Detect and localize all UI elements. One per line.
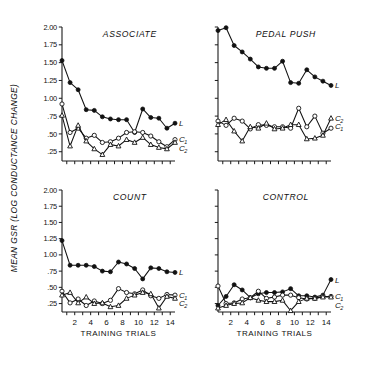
y-tick-label: 1.25 [43,234,57,243]
data-point-filled-circle [173,270,177,274]
x-tick-label: 12 [150,318,159,327]
data-point-open-circle [124,130,128,134]
data-point-filled-circle [289,287,293,291]
y-tick-label: 1.50 [43,218,57,227]
panel-associate: 2.001.751.501.251.00.75.50.25ASSOCIATELC… [43,23,187,165]
data-point-filled-circle [92,265,96,269]
x-tick-label: 6 [260,318,265,327]
data-point-open-circle [133,130,137,134]
data-point-filled-circle [117,260,121,264]
data-point-filled-circle [76,263,80,267]
data-point-filled-circle [240,50,244,54]
y-axis-title: MEAN GSR (LOG CONDUCTANCE CHANGE) [9,84,19,272]
data-point-filled-circle [264,66,268,70]
data-point-open-circle [68,301,72,305]
panel-pedal-push: PEDAL PUSHLC2C1 [215,26,343,164]
y-tick-label: .25 [47,299,57,308]
data-point-open-triangle [124,296,129,300]
data-point-filled-circle [60,59,64,63]
data-point-open-circle [124,290,128,294]
data-point-filled-circle [125,262,129,266]
data-point-open-circle [289,293,293,297]
series-label-l: L [335,81,339,90]
data-point-open-circle [60,102,64,106]
data-point-filled-circle [224,294,228,298]
series-label-c2-subscript: 2 [183,303,187,309]
data-point-filled-circle [92,108,96,112]
data-point-open-circle [216,284,220,288]
data-point-filled-circle [240,288,244,292]
panel-title: ASSOCIATE [102,29,157,39]
series-label-l: L [335,276,339,285]
data-point-filled-circle [289,81,293,85]
data-point-open-triangle [108,304,113,308]
data-point-open-circle [232,116,236,120]
data-point-open-triangle [84,294,89,298]
x-tick-label: 8 [276,318,281,327]
series-label-c2-subscript: 2 [183,148,187,154]
data-point-open-triangle [140,135,145,139]
data-point-open-circle [329,126,333,130]
data-point-open-triangle [256,298,261,302]
data-point-filled-circle [273,291,277,295]
data-point-open-circle [116,287,120,291]
data-point-open-triangle [296,299,301,303]
data-point-open-triangle [100,300,105,304]
data-point-open-triangle [76,123,81,127]
data-point-open-circle [157,140,161,144]
data-point-filled-circle [329,83,333,87]
data-point-open-triangle [248,124,253,128]
x-tick-label: 2 [229,318,234,327]
data-point-open-circle [240,119,244,123]
y-tick-label: .50 [47,283,57,292]
series-label-c2-subscript: 2 [339,305,343,311]
data-point-open-circle [224,123,228,127]
data-point-filled-circle [68,263,72,267]
y-tick-label: 1.75 [43,40,57,49]
data-point-open-circle [84,303,88,307]
data-point-filled-circle [149,116,153,120]
data-point-filled-circle [84,108,88,112]
gsr-multi-panel-figure: 2.001.751.501.251.00.75.50.25ASSOCIATELC… [0,0,366,367]
data-point-open-circle [297,106,301,110]
data-point-open-triangle [60,113,65,117]
y-tick-label: 1.25 [43,76,57,85]
data-point-filled-circle [224,26,228,30]
data-point-filled-circle [165,126,169,130]
data-point-filled-circle [305,68,309,72]
panel-title: PEDAL PUSH [256,29,316,39]
data-point-open-triangle [224,117,229,121]
data-point-open-circle [100,140,104,144]
data-point-open-circle [149,134,153,138]
data-point-filled-circle [108,270,112,274]
x-axis-title: TRAINING TRIALS [81,329,157,338]
x-tick-label: 6 [104,318,109,327]
data-point-open-circle [256,289,260,293]
data-point-open-triangle [312,136,317,140]
data-point-filled-circle [281,59,285,63]
data-point-open-triangle [240,300,245,304]
y-tick-label: 1.00 [43,250,57,259]
data-point-filled-circle [232,283,236,287]
data-point-filled-circle [256,65,260,69]
data-point-open-triangle [68,290,73,294]
x-axis-title: TRAINING TRIALS [237,329,313,338]
y-tick-label: .50 [47,130,57,139]
data-point-open-circle [116,136,120,140]
data-point-filled-circle [297,81,301,85]
x-tick-label: 14 [322,318,331,327]
data-point-filled-circle [273,66,277,70]
data-point-open-circle [157,296,161,300]
y-tick-label: 1.00 [43,94,57,103]
x-tick-label: 10 [290,318,299,327]
y-tick-label: 1.50 [43,58,57,67]
data-point-open-triangle [280,298,285,302]
data-point-open-triangle [148,291,153,295]
data-point-open-circle [280,293,284,297]
data-point-filled-circle [173,121,177,125]
data-point-filled-circle [248,57,252,61]
data-point-open-circle [68,130,72,134]
data-point-open-circle [305,125,309,129]
panel-title: CONTROL [263,192,309,202]
panel-title: COUNT [113,192,147,202]
